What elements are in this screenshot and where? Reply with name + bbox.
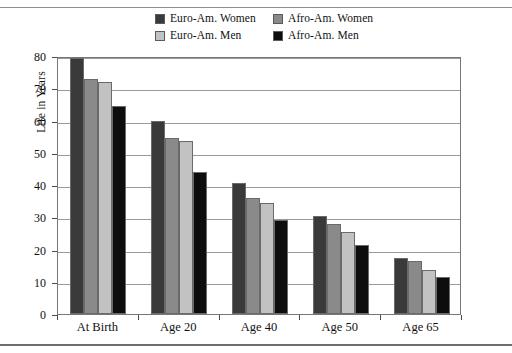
bar[interactable] — [436, 277, 450, 314]
legend-label: Euro-Am. Men — [170, 30, 241, 42]
x-tick-label: Age 20 — [133, 321, 223, 334]
x-tick-mark — [380, 315, 381, 320]
legend-label: Afro-Am. Women — [288, 13, 373, 25]
legend-item-euro-am-men: Euro-Am. Men — [155, 30, 273, 42]
bar[interactable] — [112, 106, 126, 314]
bar[interactable] — [165, 138, 179, 314]
legend-swatch-icon — [273, 31, 283, 41]
bars-layer — [58, 58, 460, 314]
bar[interactable] — [422, 270, 436, 314]
y-tick-label: 80 — [6, 51, 46, 63]
x-tick-label: Age 40 — [214, 321, 304, 334]
bar-group — [313, 58, 369, 314]
y-tick-label: 60 — [6, 116, 46, 128]
bar[interactable] — [260, 203, 274, 314]
bar[interactable] — [341, 232, 355, 314]
x-tick-mark — [299, 315, 300, 320]
x-tick-label: Age 65 — [376, 321, 466, 334]
bar[interactable] — [70, 58, 84, 314]
x-tick-mark — [57, 315, 58, 320]
bar[interactable] — [179, 141, 193, 314]
y-tick-label: 30 — [6, 212, 46, 224]
y-tick-label: 50 — [6, 148, 46, 160]
bar[interactable] — [327, 224, 341, 314]
x-tick-mark — [461, 315, 462, 320]
y-tick-label: 10 — [6, 277, 46, 289]
bar-group — [394, 58, 450, 314]
bar[interactable] — [355, 245, 369, 314]
x-tick-mark — [138, 315, 139, 320]
bar[interactable] — [394, 258, 408, 314]
bar-group — [232, 58, 288, 314]
y-tick-label: 0 — [6, 309, 46, 321]
bar[interactable] — [246, 198, 260, 314]
legend-label: Afro-Am. Men — [288, 30, 359, 42]
top-horizontal-rule — [0, 7, 512, 8]
bar[interactable] — [274, 220, 288, 314]
legend-item-euro-am-women: Euro-Am. Women — [155, 13, 273, 25]
bar[interactable] — [232, 183, 246, 314]
bar-group — [70, 58, 126, 314]
bottom-horizontal-rule — [0, 344, 512, 346]
x-tick-label: At Birth — [52, 321, 142, 334]
x-tick-label: Age 50 — [295, 321, 385, 334]
bar[interactable] — [151, 121, 165, 315]
legend-swatch-icon — [155, 31, 165, 41]
y-tick-label: 20 — [6, 245, 46, 257]
legend-swatch-icon — [273, 14, 283, 24]
legend-item-afro-am-women: Afro-Am. Women — [273, 13, 403, 25]
bar[interactable] — [408, 261, 422, 314]
legend-label: Euro-Am. Women — [170, 13, 256, 25]
bar[interactable] — [193, 172, 207, 314]
bar[interactable] — [84, 79, 98, 314]
chart-legend: Euro-Am. Women Afro-Am. Women Euro-Am. M… — [155, 10, 415, 44]
bar[interactable] — [313, 216, 327, 314]
legend-item-afro-am-men: Afro-Am. Men — [273, 30, 403, 42]
y-tick-label: 40 — [6, 180, 46, 192]
legend-swatch-icon — [155, 14, 165, 24]
x-tick-mark — [219, 315, 220, 320]
bar-group — [151, 58, 207, 314]
plot-area — [57, 57, 461, 315]
y-tick-label: 70 — [6, 83, 46, 95]
bar[interactable] — [98, 82, 112, 314]
